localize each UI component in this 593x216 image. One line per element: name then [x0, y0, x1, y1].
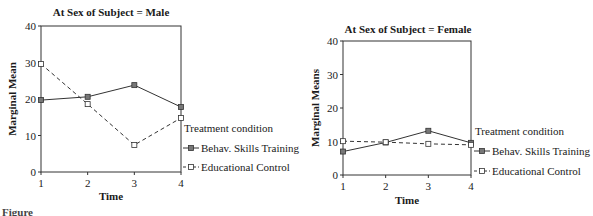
y-tick-label: 20	[25, 93, 37, 105]
series-line-behav	[41, 85, 181, 107]
series-line-behav	[343, 131, 471, 152]
legend-item-behav: Behav. Skills Training	[474, 145, 590, 157]
data-point-marker	[39, 98, 44, 103]
series-line-educ	[343, 141, 471, 145]
y-tick-label: 0	[31, 166, 37, 178]
y-tick-label: 30	[25, 57, 37, 69]
data-point-marker	[341, 149, 346, 154]
y-tick-label: 20	[327, 102, 339, 114]
x-tick-label: 3	[426, 180, 432, 192]
x-tick-label: 2	[383, 180, 389, 192]
series-lines	[341, 128, 474, 154]
data-point-marker	[341, 139, 346, 144]
y-axis-label: Marginal Mean	[6, 62, 18, 136]
data-point-marker	[179, 115, 184, 120]
legend-title: Treatment condition	[184, 122, 274, 134]
y-tick-label: 0	[333, 169, 339, 181]
chart-title: At Sex of Subject = Female	[345, 23, 472, 35]
data-point-marker	[383, 140, 388, 145]
data-point-marker	[469, 142, 474, 147]
svg-text:Behav. Skills Training: Behav. Skills Training	[492, 145, 590, 157]
data-point-marker	[426, 141, 431, 146]
chart-female: At Sex of Subject = Female 010203040 123…	[300, 0, 593, 216]
data-point-marker	[85, 94, 90, 99]
data-point-marker	[132, 142, 137, 147]
x-tick-label: 1	[38, 177, 44, 189]
series-line-educ	[41, 64, 181, 145]
y-tick-label: 10	[327, 136, 339, 148]
legend: Treatment condition Behav. Skills Traini…	[474, 125, 590, 177]
square-marker-icon	[189, 165, 194, 170]
x-tick-label: 4	[178, 177, 184, 189]
legend-item-educ: Educational Control	[183, 161, 290, 173]
svg-text:Educational Control: Educational Control	[492, 165, 581, 177]
y-tick-label: 10	[25, 130, 37, 142]
data-point-marker	[179, 105, 184, 110]
legend-item-behav: Behav. Skills Training	[183, 142, 299, 154]
data-point-marker	[85, 102, 90, 107]
data-point-marker	[132, 83, 137, 88]
x-tick-label: 2	[85, 177, 91, 189]
data-point-marker	[426, 128, 431, 133]
y-tick-label: 40	[327, 35, 339, 47]
legend-item-educ: Educational Control	[474, 165, 581, 177]
x-axis: 1234	[340, 175, 474, 192]
figure-caption: Figure	[2, 206, 33, 216]
series-lines	[39, 61, 184, 147]
x-axis-label: Time	[395, 194, 419, 206]
svg-text:Educational Control: Educational Control	[201, 161, 290, 173]
x-tick-label: 1	[340, 180, 346, 192]
y-tick-label: 30	[327, 69, 339, 81]
data-point-marker	[39, 61, 44, 66]
x-tick-label: 3	[132, 177, 138, 189]
chart-male: At Sex of Subject = Male 010203040 1234 …	[0, 0, 300, 216]
legend: Treatment condition Behav. Skills Traini…	[183, 122, 299, 173]
plot-area	[343, 41, 471, 175]
square-marker-icon	[480, 169, 485, 174]
y-axis-label: Marginal Means	[309, 68, 321, 147]
square-marker-icon	[480, 149, 485, 154]
chart-title: At Sex of Subject = Male	[53, 6, 170, 18]
svg-text:Behav. Skills Training: Behav. Skills Training	[201, 142, 299, 154]
square-marker-icon	[189, 146, 194, 151]
y-tick-label: 40	[25, 20, 37, 32]
x-axis-label: Time	[99, 190, 123, 202]
legend-title: Treatment condition	[475, 125, 565, 137]
x-axis: 1234	[38, 172, 184, 189]
x-tick-label: 4	[468, 180, 474, 192]
y-axis: 010203040	[327, 35, 343, 181]
